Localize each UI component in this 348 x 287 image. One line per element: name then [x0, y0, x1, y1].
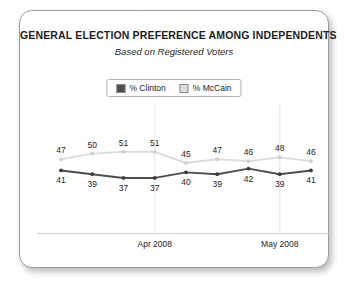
data-label: 48: [275, 143, 285, 153]
data-point: [59, 169, 63, 173]
data-point: [309, 159, 313, 163]
data-point: [184, 161, 188, 165]
data-point: [184, 170, 188, 174]
chart-legend: % Clinton % McCain: [106, 79, 241, 97]
data-point: [309, 169, 313, 173]
data-point: [247, 167, 251, 171]
data-label: 41: [56, 175, 66, 185]
data-label: 50: [88, 140, 98, 150]
data-label: 46: [244, 147, 254, 157]
legend-item-mccain: % McCain: [180, 83, 232, 93]
data-label: 39: [88, 179, 98, 189]
legend-label-mccain: % McCain: [193, 83, 232, 93]
data-point: [215, 172, 219, 176]
chart-title: GENERAL ELECTION PREFERENCE AMONG INDEPE…: [20, 29, 328, 41]
chart-screenshot: GENERAL ELECTION PREFERENCE AMONG INDEPE…: [0, 0, 348, 287]
data-label: 39: [213, 179, 223, 189]
data-label: 42: [244, 174, 254, 184]
chart-subtitle: Based on Registered Voters: [20, 46, 328, 57]
data-point: [153, 176, 157, 180]
data-point: [122, 176, 126, 180]
data-label: 47: [213, 145, 223, 155]
plot-area: 475051514547464846413937374039423941: [37, 105, 329, 233]
data-label: 37: [119, 183, 129, 193]
clinton-swatch-icon: [116, 84, 125, 93]
data-point: [247, 159, 251, 163]
data-label: 51: [150, 138, 160, 148]
data-point: [90, 172, 94, 176]
data-point: [122, 150, 126, 154]
data-label: 45: [181, 149, 191, 159]
legend-item-clinton: % Clinton: [116, 83, 165, 93]
data-point: [153, 150, 157, 154]
data-label: 37: [150, 183, 160, 193]
x-tick-label: Apr 2008: [138, 239, 173, 249]
data-point: [215, 157, 219, 161]
data-label: 41: [306, 175, 316, 185]
data-point: [90, 152, 94, 156]
data-point: [278, 172, 282, 176]
data-label: 46: [306, 147, 316, 157]
x-axis-tick-labels: Apr 2008May 2008: [20, 239, 328, 255]
chart-card: GENERAL ELECTION PREFERENCE AMONG INDEPE…: [19, 10, 329, 268]
data-point: [278, 156, 282, 160]
data-label: 40: [181, 177, 191, 187]
line-chart-svg: 475051514547464846413937374039423941: [37, 105, 329, 233]
data-point: [59, 157, 63, 161]
x-axis-line: [37, 233, 329, 234]
legend-label-clinton: % Clinton: [129, 83, 165, 93]
mccain-swatch-icon: [180, 84, 189, 93]
x-tick-label: May 2008: [261, 239, 298, 249]
data-label: 47: [56, 145, 66, 155]
data-label: 39: [275, 179, 285, 189]
data-label: 51: [119, 138, 129, 148]
